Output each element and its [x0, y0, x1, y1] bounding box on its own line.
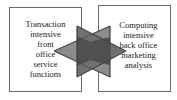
front-office-label: Transaction intensive front office servi…: [26, 19, 66, 79]
back-office-box: Computing intensive back office marketin…: [98, 5, 171, 92]
back-office-label: Computing intensive back office marketin…: [111, 20, 157, 70]
front-office-box: Transaction intensive front office servi…: [9, 7, 82, 92]
